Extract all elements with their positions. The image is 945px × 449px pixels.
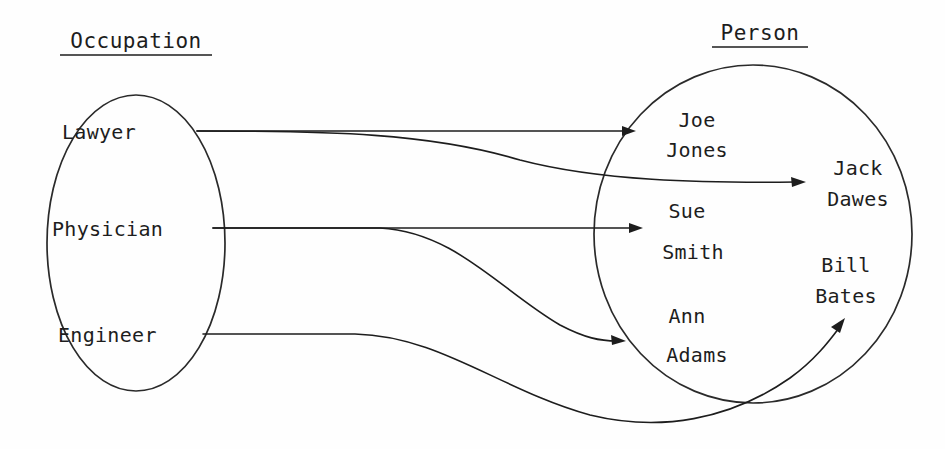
edge-physician-to-ann-adams-arrowhead (611, 335, 626, 345)
occupation-set-title: Occupation (70, 29, 201, 53)
person-set-group: Person Joe Jones Jack Dawes Sue Smith Bi… (594, 21, 912, 403)
person-member-joe-jones-line1[interactable]: Joe (678, 108, 715, 132)
edge-lawyer-to-jack-dawes-arrowhead (791, 177, 806, 187)
edge-physician-to-ann-adams[interactable] (213, 228, 626, 345)
mapping-diagram: Occupation Lawyer Physician Engineer Per… (0, 0, 945, 449)
edge-physician-to-sue-smith-arrowhead (629, 223, 643, 233)
occupation-member-lawyer[interactable]: Lawyer (62, 120, 136, 144)
person-member-jack-dawes-line2[interactable]: Dawes (827, 187, 889, 211)
person-ellipse (594, 65, 912, 403)
edge-physician-to-ann-adams-line (213, 228, 617, 341)
occupation-set-group: Occupation Lawyer Physician Engineer (47, 29, 225, 391)
occupation-member-engineer[interactable]: Engineer (58, 323, 157, 347)
person-member-joe-jones-line2[interactable]: Jones (666, 138, 728, 162)
diagram-page: Occupation Lawyer Physician Engineer Per… (0, 0, 945, 449)
person-set-title: Person (721, 21, 800, 45)
person-member-bill-bates-line1[interactable]: Bill (821, 253, 870, 277)
edge-engineer-to-bill-bates[interactable] (203, 318, 845, 422)
person-member-sue-smith-line1[interactable]: Sue (668, 199, 705, 223)
person-member-bill-bates-line2[interactable]: Bates (815, 284, 877, 308)
person-member-ann-adams-line1[interactable]: Ann (668, 304, 705, 328)
edge-engineer-to-bill-bates-arrowhead (831, 318, 845, 333)
person-member-jack-dawes-line1[interactable]: Jack (833, 156, 882, 180)
occupation-member-physician[interactable]: Physician (52, 217, 163, 241)
person-member-sue-smith-line2[interactable]: Smith (662, 240, 724, 264)
person-member-ann-adams-line2[interactable]: Adams (666, 343, 728, 367)
edge-engineer-to-bill-bates-line (203, 328, 839, 422)
